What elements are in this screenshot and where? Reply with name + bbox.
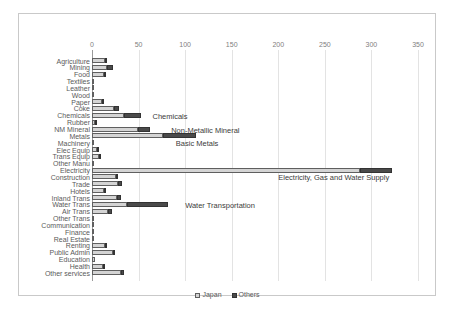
bar-row	[92, 127, 150, 132]
gridline-300	[371, 50, 372, 281]
bar-row	[92, 243, 107, 248]
bar-segment-others	[360, 168, 392, 173]
bar-segment-others	[117, 195, 121, 200]
bar-row	[92, 216, 94, 221]
legend-item-others[interactable]: Others	[232, 291, 260, 298]
x-tick-label: 0	[90, 41, 94, 49]
bar-segment-japan	[92, 243, 105, 248]
bar-row	[92, 236, 94, 241]
legend-label: Others	[239, 291, 260, 298]
bar-segment-japan	[92, 133, 163, 138]
x-tick-label: 100	[179, 41, 191, 49]
bar-segment-japan	[92, 127, 138, 132]
bar-segment-japan	[92, 113, 124, 118]
bar-row	[92, 264, 105, 269]
legend-item-japan[interactable]: Japan	[195, 291, 221, 298]
chart-plot-area: 050100150200250300350 AgricultureMiningF…	[0, 0, 455, 311]
bar-segment-others	[107, 65, 114, 70]
bar-segment-japan	[92, 250, 113, 255]
bar-row	[92, 72, 106, 77]
bar-row	[92, 79, 94, 84]
gridline-250	[325, 50, 326, 281]
bar-row	[92, 181, 122, 186]
bar-segment-japan	[92, 264, 103, 269]
legend-swatch-icon	[232, 293, 237, 298]
bar-segment-others	[124, 113, 142, 118]
gridline-50	[139, 50, 140, 281]
bar-segment-japan	[92, 222, 94, 227]
bar-segment-others	[105, 58, 107, 63]
bar-segment-others	[105, 243, 107, 248]
x-tick-label: 200	[272, 41, 284, 49]
legend-swatch-icon	[195, 293, 200, 298]
bar-segment-others	[104, 188, 106, 193]
x-tick-label: 150	[226, 41, 238, 49]
bar-segment-japan	[92, 85, 94, 90]
bar-segment-japan	[92, 229, 94, 234]
bar-segment-japan	[92, 65, 107, 70]
bar-row	[92, 168, 392, 173]
bar-row	[92, 106, 119, 111]
bar-row	[92, 147, 99, 152]
bar-segment-others	[113, 250, 115, 255]
bar-segment-japan	[92, 161, 94, 166]
bar-segment-japan	[92, 236, 94, 241]
bar-row	[92, 250, 115, 255]
bar-segment-others	[95, 120, 97, 125]
bar-segment-others	[97, 147, 99, 152]
bar-segment-others	[103, 264, 105, 269]
gridline-200	[278, 50, 279, 281]
gridline-150	[232, 50, 233, 281]
bar-row	[92, 270, 124, 275]
bar-row	[92, 85, 94, 90]
chart-annotation: Water Transportation	[185, 201, 255, 210]
chart-annotation: Electricity, Gas and Water Supply	[278, 173, 389, 182]
bar-segment-others	[102, 99, 104, 104]
category-label-other-services: Other services	[2, 270, 90, 277]
bar-segment-japan	[92, 270, 121, 275]
bar-segment-japan	[92, 195, 117, 200]
bar-segment-japan	[92, 79, 94, 84]
bar-segment-others	[104, 72, 106, 77]
bar-segment-others	[99, 154, 101, 159]
x-tick-label: 50	[135, 41, 143, 49]
bar-row	[92, 209, 112, 214]
bar-row	[92, 257, 95, 262]
bar-row	[92, 229, 94, 234]
x-tick-label: 300	[366, 41, 378, 49]
bar-segment-japan	[92, 257, 95, 262]
y-axis-category-labels: AgricultureMiningFoodTextilesLeatherWood…	[0, 0, 90, 311]
bar-segment-others	[114, 106, 119, 111]
bar-segment-japan	[92, 216, 94, 221]
bar-row	[92, 161, 94, 166]
bar-segment-others	[138, 127, 150, 132]
bar-segment-others	[121, 270, 124, 275]
bar-row	[92, 92, 94, 97]
bar-segment-japan	[92, 174, 116, 179]
bar-segment-others	[127, 202, 168, 207]
bar-segment-japan	[92, 58, 105, 63]
chart-annotation: Chemicals	[153, 112, 188, 121]
bar-row	[92, 120, 97, 125]
chart-annotation: Non-Metallic Mineral	[171, 126, 239, 135]
bar-row	[92, 202, 168, 207]
x-tick-label: 250	[319, 41, 331, 49]
bar-row	[92, 188, 106, 193]
bar-row	[92, 65, 113, 70]
gridline-350	[418, 50, 419, 281]
bar-segment-japan	[92, 181, 118, 186]
bar-row	[92, 195, 121, 200]
bar-segment-japan	[92, 168, 360, 173]
bar-segment-japan	[92, 140, 94, 145]
bar-segment-japan	[92, 188, 104, 193]
bar-segment-others	[118, 181, 122, 186]
bar-segment-japan	[92, 106, 114, 111]
bar-segment-japan	[92, 99, 102, 104]
bar-row	[92, 222, 94, 227]
chart-annotation: Basic Metals	[176, 139, 219, 148]
bar-row	[92, 174, 118, 179]
chart-legend: JapanOthers	[0, 291, 455, 298]
bar-segment-japan	[92, 72, 104, 77]
legend-label: Japan	[202, 291, 221, 298]
x-tick-label: 350	[412, 41, 424, 49]
